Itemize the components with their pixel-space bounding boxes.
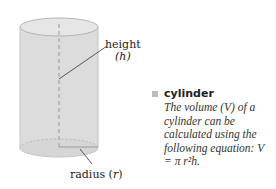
- caption: cylinder The volume (V) of a cylinder ca…: [164, 87, 274, 169]
- height-label: height (h): [105, 39, 141, 63]
- height-variable: (h): [105, 51, 141, 63]
- caption-title-text: cylinder: [164, 87, 214, 100]
- radius-label: radius (r): [70, 169, 122, 181]
- caption-title: cylinder: [164, 87, 274, 100]
- cylinder-base-shade: [20, 139, 98, 157]
- bullet-square-icon: [152, 91, 158, 97]
- radius-variable: r: [113, 168, 118, 181]
- cylinder-diagram: [0, 0, 140, 189]
- caption-body: The volume (V) of a cylinder can be calc…: [164, 101, 274, 169]
- radius-label-text: radius: [70, 168, 105, 181]
